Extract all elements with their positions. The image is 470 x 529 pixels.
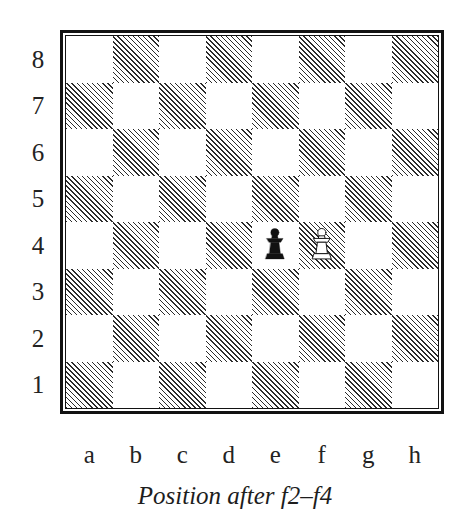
square-a2[interactable] (66, 315, 113, 362)
square-h1[interactable] (392, 362, 439, 409)
square-h5[interactable] (392, 176, 439, 223)
rank-label-7: 7 (20, 83, 56, 130)
white-pawn-f4[interactable] (299, 222, 346, 269)
square-f1[interactable] (299, 362, 346, 409)
square-c2[interactable] (159, 315, 206, 362)
square-b2[interactable] (113, 315, 160, 362)
square-f7[interactable] (299, 83, 346, 130)
square-e2[interactable] (252, 315, 299, 362)
square-b7[interactable] (113, 83, 160, 130)
square-d1[interactable] (206, 362, 253, 409)
square-f2[interactable] (299, 315, 346, 362)
file-label-f: f (299, 437, 346, 471)
square-e6[interactable] (252, 129, 299, 176)
square-f6[interactable] (299, 129, 346, 176)
square-b3[interactable] (113, 269, 160, 316)
square-b4[interactable] (113, 222, 160, 269)
rank-label-1: 1 (20, 362, 56, 409)
square-h4[interactable] (392, 222, 439, 269)
square-a8[interactable] (66, 36, 113, 83)
square-f4[interactable] (299, 222, 346, 269)
square-e5[interactable] (252, 176, 299, 223)
rank-label-6: 6 (20, 129, 56, 176)
rank-label-column: 8 7 6 5 4 3 2 1 (20, 36, 56, 408)
square-c3[interactable] (159, 269, 206, 316)
square-c1[interactable] (159, 362, 206, 409)
square-a1[interactable] (66, 362, 113, 409)
chessboard-frame (60, 30, 444, 414)
square-a3[interactable] (66, 269, 113, 316)
square-b1[interactable] (113, 362, 160, 409)
square-g1[interactable] (345, 362, 392, 409)
square-c7[interactable] (159, 83, 206, 130)
square-e7[interactable] (252, 83, 299, 130)
file-label-row: a b c d e f g h (66, 437, 438, 471)
square-h7[interactable] (392, 83, 439, 130)
square-c8[interactable] (159, 36, 206, 83)
square-e4[interactable] (252, 222, 299, 269)
square-e3[interactable] (252, 269, 299, 316)
square-d5[interactable] (206, 176, 253, 223)
square-d3[interactable] (206, 269, 253, 316)
chessboard-inner-rule (65, 35, 439, 409)
square-f3[interactable] (299, 269, 346, 316)
square-f5[interactable] (299, 176, 346, 223)
file-label-a: a (66, 437, 113, 471)
square-h3[interactable] (392, 269, 439, 316)
square-b6[interactable] (113, 129, 160, 176)
rank-label-3: 3 (20, 269, 56, 316)
chessboard-grid (66, 36, 438, 408)
square-c6[interactable] (159, 129, 206, 176)
rank-label-2: 2 (20, 315, 56, 362)
square-d4[interactable] (206, 222, 253, 269)
file-label-b: b (113, 437, 160, 471)
square-d7[interactable] (206, 83, 253, 130)
square-g7[interactable] (345, 83, 392, 130)
square-a6[interactable] (66, 129, 113, 176)
square-f8[interactable] (299, 36, 346, 83)
rank-label-8: 8 (20, 36, 56, 83)
square-d8[interactable] (206, 36, 253, 83)
square-c5[interactable] (159, 176, 206, 223)
black-pawn-e4[interactable] (252, 222, 299, 269)
square-g8[interactable] (345, 36, 392, 83)
square-g6[interactable] (345, 129, 392, 176)
square-h6[interactable] (392, 129, 439, 176)
square-a5[interactable] (66, 176, 113, 223)
file-label-d: d (206, 437, 253, 471)
square-a7[interactable] (66, 83, 113, 130)
square-g2[interactable] (345, 315, 392, 362)
file-label-g: g (345, 437, 392, 471)
square-d2[interactable] (206, 315, 253, 362)
chess-diagram: 8 7 6 5 4 3 2 1 a b c d e f g h Position… (0, 0, 470, 529)
square-c4[interactable] (159, 222, 206, 269)
file-label-e: e (252, 437, 299, 471)
file-label-h: h (392, 437, 439, 471)
square-h8[interactable] (392, 36, 439, 83)
rank-label-5: 5 (20, 176, 56, 223)
file-label-c: c (159, 437, 206, 471)
square-g4[interactable] (345, 222, 392, 269)
square-e1[interactable] (252, 362, 299, 409)
square-d6[interactable] (206, 129, 253, 176)
square-g5[interactable] (345, 176, 392, 223)
rank-label-4: 4 (20, 222, 56, 269)
diagram-caption: Position after f2–f4 (0, 482, 470, 510)
square-h2[interactable] (392, 315, 439, 362)
square-a4[interactable] (66, 222, 113, 269)
square-b5[interactable] (113, 176, 160, 223)
square-b8[interactable] (113, 36, 160, 83)
square-g3[interactable] (345, 269, 392, 316)
square-e8[interactable] (252, 36, 299, 83)
